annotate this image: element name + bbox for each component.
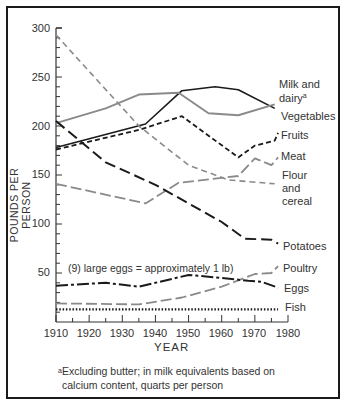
y-tick-label: 250 bbox=[32, 71, 50, 83]
y-tick-labels: 300 250 200 150 100 50 bbox=[32, 22, 50, 278]
label-poultry: Poultry bbox=[283, 262, 318, 274]
label-flour: Flour bbox=[282, 169, 307, 181]
x-tick-label: 1970 bbox=[242, 327, 266, 339]
label-fruits: Fruits bbox=[281, 129, 309, 141]
label-potatoes: Potatoes bbox=[283, 240, 327, 252]
y-axis-title: POUNDS PER PERSON bbox=[8, 145, 32, 265]
series-vegetables bbox=[56, 93, 275, 123]
footnote: aExcluding butter; in milk equivalents b… bbox=[58, 364, 275, 392]
series-meat bbox=[56, 157, 278, 203]
x-tick-label: 1980 bbox=[276, 327, 300, 339]
x-tick-label: 1960 bbox=[209, 327, 233, 339]
y-tick-label: 200 bbox=[32, 120, 50, 132]
series-milk-and-dairy bbox=[56, 87, 275, 148]
x-tick-labels: 1910 1920 1930 1940 1950 1960 1970 1980 bbox=[44, 327, 300, 339]
footnote-line-1: Excluding butter; in milk equivalents ba… bbox=[62, 365, 275, 377]
y-ticks bbox=[56, 28, 62, 312]
series-eggs bbox=[56, 275, 278, 288]
label-fish: Fish bbox=[285, 301, 306, 313]
label-milk: Milk and bbox=[279, 78, 320, 90]
x-ticks bbox=[56, 315, 288, 322]
x-tick-label: 1930 bbox=[110, 327, 134, 339]
x-axis-title: YEAR bbox=[154, 341, 189, 353]
label-eggs: Eggs bbox=[284, 282, 310, 294]
y-tick-label: 50 bbox=[38, 266, 50, 278]
y-tick-label: 150 bbox=[32, 168, 50, 180]
x-tick-label: 1920 bbox=[77, 327, 101, 339]
series-flour-and-cereal bbox=[56, 35, 275, 184]
x-tick-label: 1950 bbox=[176, 327, 200, 339]
series-fruits bbox=[56, 116, 278, 157]
label-milk-2: dairya bbox=[279, 92, 307, 104]
x-tick-label: 1940 bbox=[143, 327, 167, 339]
label-flour-2: and bbox=[282, 182, 300, 194]
x-tick-label: 1910 bbox=[44, 327, 68, 339]
label-flour-3: cereal bbox=[282, 195, 312, 207]
footnote-line-2: calcium content, quarts per person bbox=[58, 378, 275, 392]
label-vegetables: Vegetables bbox=[281, 110, 336, 122]
eggs-annotation: (9) large eggs = approximately 1 lb) bbox=[68, 262, 233, 274]
y-tick-label: 100 bbox=[32, 217, 50, 229]
y-tick-label: 300 bbox=[32, 22, 50, 34]
label-meat: Meat bbox=[281, 150, 305, 162]
